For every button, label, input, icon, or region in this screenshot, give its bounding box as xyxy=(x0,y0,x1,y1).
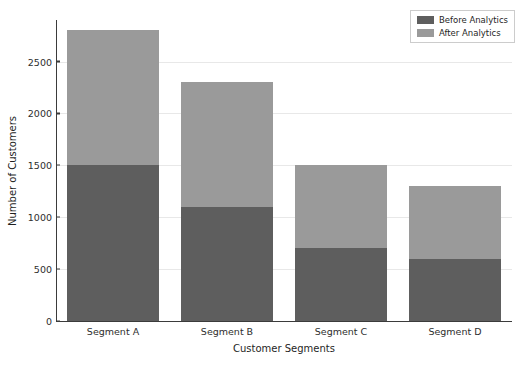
bar-segment[interactable] xyxy=(409,186,500,259)
y-axis-tick: 0 xyxy=(46,316,56,327)
x-axis-label: Customer Segments xyxy=(233,343,335,354)
plot-area: Number of Customers 05001000150020002500 xyxy=(56,20,512,321)
legend-label: After Analytics xyxy=(439,28,501,38)
bar-segment[interactable] xyxy=(181,82,272,207)
y-axis-tick: 2000 xyxy=(28,108,56,119)
bar-group[interactable] xyxy=(67,20,158,321)
x-axis-tick-label: Segment B xyxy=(201,326,253,337)
y-axis-tick: 500 xyxy=(34,264,56,275)
bar-segment[interactable] xyxy=(295,165,386,248)
bar-group[interactable] xyxy=(295,20,386,321)
x-axis-tick-label: Segment D xyxy=(428,326,481,337)
legend-swatch xyxy=(417,16,434,24)
y-axis-tick-label: 2000 xyxy=(28,108,56,119)
bar-group[interactable] xyxy=(181,20,272,321)
x-axis-tick-label: Segment C xyxy=(315,326,367,337)
bar-segment[interactable] xyxy=(295,248,386,321)
y-axis-tick-label: 500 xyxy=(34,264,56,275)
chart-figure: Number of Customers 05001000150020002500… xyxy=(0,0,524,367)
legend-label: Before Analytics xyxy=(439,15,508,25)
y-axis-tick-label: 1000 xyxy=(28,212,56,223)
y-axis-tick: 1000 xyxy=(28,212,56,223)
chart-legend: Before AnalyticsAfter Analytics xyxy=(410,10,515,43)
bar-segment[interactable] xyxy=(67,30,158,165)
y-axis-tick-label: 1500 xyxy=(28,160,56,171)
y-axis-tick-label: 2500 xyxy=(28,56,56,67)
y-axis-tick: 1500 xyxy=(28,160,56,171)
y-axis-tick-label: 0 xyxy=(46,316,56,327)
bar-series-container xyxy=(56,20,512,321)
y-axis-spine xyxy=(56,20,57,322)
bar-segment[interactable] xyxy=(181,207,272,321)
legend-swatch xyxy=(417,29,434,37)
bar-group[interactable] xyxy=(409,20,500,321)
x-axis-tick-label: Segment A xyxy=(87,326,139,337)
bar-segment[interactable] xyxy=(67,165,158,321)
bar-segment[interactable] xyxy=(409,259,500,321)
x-axis-spine xyxy=(56,321,512,322)
legend-entry[interactable]: After Analytics xyxy=(417,28,508,38)
legend-entry[interactable]: Before Analytics xyxy=(417,15,508,25)
y-axis-label: Number of Customers xyxy=(7,116,18,226)
y-axis-tick: 2500 xyxy=(28,56,56,67)
